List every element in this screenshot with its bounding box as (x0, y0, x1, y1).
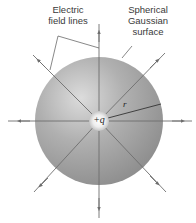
label-electric-field-lines: Electric field lines (38, 4, 98, 26)
arrow-icon (150, 176, 158, 184)
arrow-icon (40, 178, 48, 186)
label-line: field lines (38, 15, 98, 26)
label-radius: r (123, 99, 127, 109)
label-line: Gaussian (112, 15, 184, 26)
label-line: surface (112, 26, 184, 37)
label-charge: +q (89, 114, 109, 125)
leader-surface (122, 46, 132, 58)
arrow-icon (150, 60, 158, 68)
label-line: Electric (38, 4, 98, 15)
label-spherical-gaussian-surface: Spherical Gaussian surface (112, 4, 184, 37)
arrow-icon (38, 60, 45, 67)
label-line: Spherical (112, 4, 184, 15)
